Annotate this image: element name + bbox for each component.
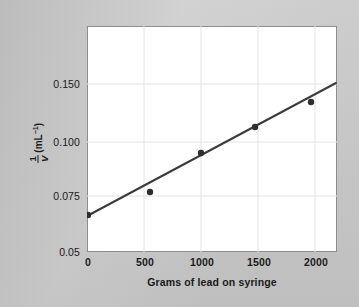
chart-canvas [87,26,337,252]
data-point [87,212,91,218]
xtick-label-500: 500 [123,256,167,268]
y-axis-title-inner: 1 V (mL−1) [28,123,49,163]
gridlines-horizontal [87,84,337,196]
x-axis-title: Grams of lead on syringe [87,276,337,288]
data-point [147,189,153,195]
y-axis-numerator: 1 [28,155,38,162]
data-point [308,99,314,105]
ytick-label-0075: 0.075 [34,190,80,202]
figure-container: 0.150 0.100 0.075 0.05 0 500 1000 1500 2… [0,0,359,307]
xtick-label-1000: 1000 [180,256,224,268]
xtick-label-0: 0 [66,256,110,268]
xtick-label-2000: 2000 [294,256,338,268]
ytick-label-0150: 0.150 [34,78,80,90]
data-point [252,124,258,130]
y-axis-units: (mL−1) [32,123,44,153]
y-axis-fraction: 1 V [28,155,49,163]
data-point [198,150,204,156]
y-axis-units-base: (mL [33,134,44,152]
y-axis-title: 1 V (mL−1) [18,108,58,178]
xtick-label-1500: 1500 [237,256,281,268]
y-axis-units-close: ) [33,123,44,126]
y-axis-units-exponent: −1 [32,126,39,134]
y-axis-denominator: V [39,155,49,163]
